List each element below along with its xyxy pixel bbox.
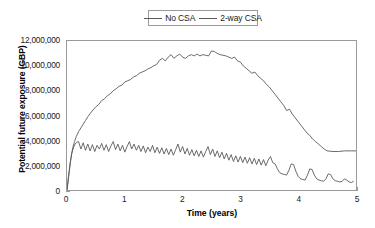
series-line [67,142,354,190]
legend-entry-2-way-csa: 2-way CSA [199,13,262,23]
y-axis-tick-label: 0 [2,186,60,196]
plot-area [66,40,357,191]
x-axis-tick-mark [357,187,358,191]
y-axis-tick-label: 4,000,000 [2,136,60,146]
y-axis-tick-label: 10,000,000 [2,60,60,70]
chart-container: No CSA 2-way CSA Potential future exposu… [0,0,375,228]
chart-legend: No CSA 2-way CSA [148,10,258,26]
y-axis-tick-label: 6,000,000 [2,111,60,121]
x-axis-tick-label: 3 [238,194,243,204]
legend-label-2-way-csa: 2-way CSA [220,13,262,23]
y-axis-tick-mark [66,191,70,192]
x-axis-title: Time (years) [66,208,358,218]
y-axis-tick-label: 12,000,000 [2,35,60,45]
plot-svg [67,41,356,190]
x-axis-tick-label: 5 [355,194,360,204]
legend-swatch-no-csa [144,18,162,19]
legend-entry-no-csa: No CSA [144,13,195,23]
legend-label-no-csa: No CSA [165,13,195,23]
legend-swatch-2-way-csa [199,18,217,19]
y-axis-tick-label: 2,000,000 [2,161,60,171]
x-axis-tick-label: 1 [122,194,127,204]
x-axis-tick-label: 0 [64,194,69,204]
x-axis-tick-label: 4 [296,194,301,204]
series-line [67,51,356,190]
y-axis-tick-label: 8,000,000 [2,85,60,95]
x-axis-tick-label: 2 [180,194,185,204]
